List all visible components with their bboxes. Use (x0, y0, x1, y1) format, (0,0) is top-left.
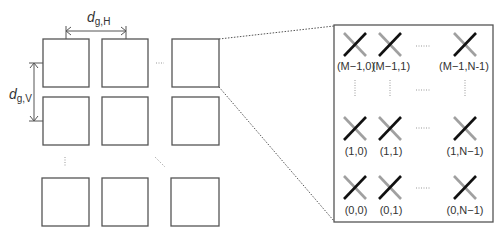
horizontal-spacing-dimension (66, 26, 126, 39)
element-square (172, 97, 219, 145)
grid-ellipses (65, 63, 165, 167)
horizontal-spacing-label: dg,H (87, 9, 110, 27)
element-square (102, 178, 148, 226)
vertical-spacing-label: dg,V (9, 86, 32, 104)
array-diagram: dg,H dg,V (0, 0, 499, 238)
grid-squares (42, 39, 219, 226)
element-index-label: (1,N−1) (447, 145, 484, 157)
element-index-label: (M−1,N-1) (439, 60, 489, 72)
element-square (42, 178, 89, 226)
element-square (171, 178, 219, 226)
element-square (43, 97, 89, 145)
element-index-label: (1,0) (345, 145, 368, 157)
element-square (102, 97, 148, 145)
element-index-label: (1,1) (380, 145, 403, 157)
element-square (43, 39, 89, 87)
element-square (172, 39, 219, 87)
zoom-lines (219, 26, 334, 221)
vertical-spacing-dimension (29, 63, 43, 121)
element-index-label: (0,1) (380, 204, 403, 216)
element-index-label: (0,N−1) (447, 204, 484, 216)
element-square (102, 39, 148, 87)
element-index-label: (M−1,1) (372, 60, 410, 72)
element-index-label: (M−1,0) (337, 60, 375, 72)
element-index-label: (0,0) (345, 204, 368, 216)
